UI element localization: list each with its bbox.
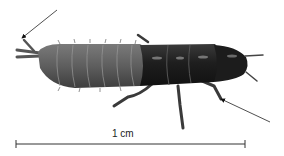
tail-appendages [17, 40, 40, 57]
head [214, 45, 248, 82]
scale-bar-label: 1 cm [112, 129, 134, 139]
mid-leg [178, 86, 183, 128]
front-leg [200, 80, 221, 99]
antennae [245, 55, 263, 81]
thorax [140, 44, 222, 86]
larva-figure: 1 cm [0, 0, 284, 156]
abdomen [38, 44, 145, 88]
head-highlight [227, 55, 237, 58]
scale-bar [16, 140, 245, 148]
larva-illustration [0, 0, 284, 156]
front-leg-arrow [221, 99, 270, 122]
dorsal-spine [138, 35, 148, 42]
tail-appendage-arrow [22, 10, 57, 38]
